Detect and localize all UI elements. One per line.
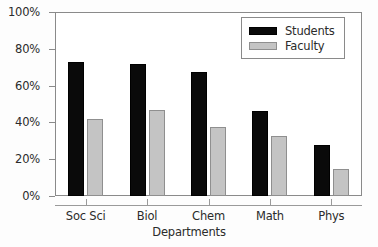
y-tick-label-0: 0% <box>22 189 40 203</box>
y-tick-label-20: 20% <box>15 152 40 166</box>
y-tick-mark-80 <box>49 49 55 50</box>
y-tick-mark-40 <box>49 122 55 123</box>
legend: Students Faculty <box>241 17 345 59</box>
category-tick-math <box>270 199 271 205</box>
category-tick-chem <box>209 199 210 205</box>
y-tick-mark-60 <box>49 86 55 87</box>
y-tick-mark-20 <box>49 159 55 160</box>
category-label-chem: Chem <box>192 209 225 223</box>
category-axis-line <box>55 205 362 206</box>
category-tick-soc-sci <box>86 199 87 205</box>
legend-label-faculty: Faculty <box>285 39 324 53</box>
y-tick-label-60: 60% <box>15 79 40 93</box>
category-label-biol: Biol <box>137 209 158 223</box>
y-tick-label-80: 80% <box>15 42 40 56</box>
category-label-phys: Phys <box>318 209 344 223</box>
legend-item-faculty: Faculty <box>249 38 335 53</box>
x-axis-title: Departments <box>0 225 378 239</box>
legend-item-students: Students <box>249 23 335 38</box>
category-tick-phys <box>331 199 332 205</box>
y-tick-mark-100 <box>49 12 55 13</box>
category-label-math: Math <box>256 209 284 223</box>
legend-swatch-faculty-icon <box>249 42 277 50</box>
y-axis: 100% 80% 60% 40% 20% 0% <box>0 0 48 247</box>
y-tick-mark-0 <box>49 196 55 197</box>
y-tick-label-40: 40% <box>15 115 40 129</box>
legend-swatch-students-icon <box>249 27 277 35</box>
legend-label-students: Students <box>285 24 335 38</box>
category-tick-biol <box>147 199 148 205</box>
category-label-soc-sci: Soc Sci <box>66 209 106 223</box>
bar-chart: 100% 80% 60% 40% 20% 0% Soc SciBiolChemM… <box>0 0 378 247</box>
y-tick-label-100: 100% <box>8 5 40 19</box>
